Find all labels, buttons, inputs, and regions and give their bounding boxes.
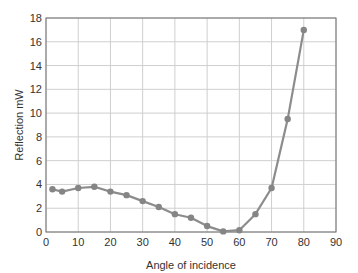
y-tick-label: 0 <box>36 226 42 238</box>
x-tick-label: 0 <box>43 236 49 248</box>
y-tick-label: 10 <box>30 107 42 119</box>
data-point-marker <box>236 227 242 233</box>
data-point-marker <box>220 228 226 234</box>
data-point-marker <box>49 186 55 192</box>
data-point-marker <box>172 211 178 217</box>
x-tick-label: 40 <box>169 236 181 248</box>
data-point-marker <box>91 184 97 190</box>
y-tick-label: 14 <box>30 60 42 72</box>
data-point-marker <box>107 188 113 194</box>
x-axis-label: Angle of incidence <box>146 259 236 271</box>
y-tick-label: 12 <box>30 83 42 95</box>
y-axis-ticks: 024681012141618 <box>30 12 42 238</box>
series-line <box>52 30 303 232</box>
data-point-marker <box>268 185 274 191</box>
gridlines <box>46 18 336 232</box>
y-tick-label: 16 <box>30 36 42 48</box>
data-point-marker <box>301 27 307 33</box>
y-tick-label: 4 <box>36 178 42 190</box>
x-tick-label: 50 <box>201 236 213 248</box>
data-point-marker <box>75 185 81 191</box>
data-point-marker <box>188 215 194 221</box>
x-tick-label: 80 <box>298 236 310 248</box>
x-tick-label: 20 <box>104 236 116 248</box>
y-axis-label: Reflection mW <box>13 89 25 161</box>
x-tick-label: 10 <box>72 236 84 248</box>
plot-frame <box>46 18 336 232</box>
data-point-marker <box>284 116 290 122</box>
y-tick-label: 8 <box>36 131 42 143</box>
data-point-marker <box>156 204 162 210</box>
data-point-marker <box>139 198 145 204</box>
data-point-marker <box>123 192 129 198</box>
data-point-marker <box>59 188 65 194</box>
x-tick-label: 90 <box>330 236 342 248</box>
x-tick-label: 60 <box>233 236 245 248</box>
y-tick-label: 6 <box>36 155 42 167</box>
data-point-marker <box>252 211 258 217</box>
line-chart: 0102030405060708090 024681012141618 Angl… <box>0 0 358 273</box>
x-axis-ticks: 0102030405060708090 <box>43 236 342 248</box>
y-tick-label: 2 <box>36 202 42 214</box>
data-point-marker <box>204 223 210 229</box>
y-tick-label: 18 <box>30 12 42 24</box>
x-tick-label: 70 <box>265 236 277 248</box>
x-tick-label: 30 <box>137 236 149 248</box>
data-markers <box>49 27 307 235</box>
